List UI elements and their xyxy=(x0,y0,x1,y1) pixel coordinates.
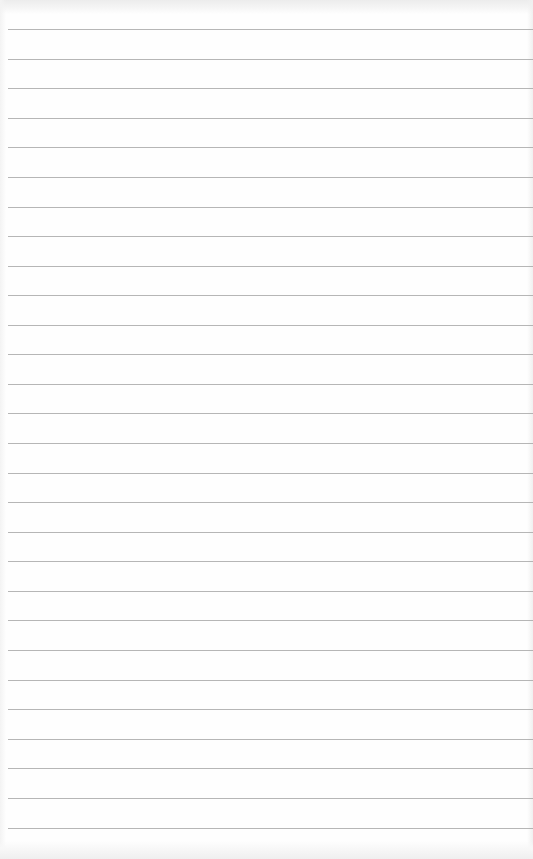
ruled-line xyxy=(8,147,533,148)
ruled-line xyxy=(8,29,533,30)
paper-right-edge xyxy=(527,0,533,859)
ruled-line xyxy=(8,118,533,119)
ruled-line xyxy=(8,650,533,651)
ruled-line xyxy=(8,207,533,208)
paper-left-edge xyxy=(0,0,6,859)
ruled-line xyxy=(8,443,533,444)
ruled-line xyxy=(8,502,533,503)
ruled-line xyxy=(8,266,533,267)
ruled-line xyxy=(8,88,533,89)
ruled-line xyxy=(8,680,533,681)
ruled-line xyxy=(8,325,533,326)
ruled-line xyxy=(8,828,533,829)
ruled-line xyxy=(8,295,533,296)
ruled-line xyxy=(8,798,533,799)
ruled-line xyxy=(8,473,533,474)
paper-bottom-edge xyxy=(0,841,533,859)
ruled-line xyxy=(8,768,533,769)
paper-top-edge xyxy=(0,0,533,14)
ruled-line xyxy=(8,709,533,710)
ruled-line xyxy=(8,384,533,385)
ruled-line xyxy=(8,236,533,237)
lined-paper xyxy=(0,0,533,859)
ruled-line xyxy=(8,354,533,355)
ruled-line xyxy=(8,591,533,592)
ruled-line xyxy=(8,413,533,414)
ruled-line xyxy=(8,561,533,562)
ruled-line xyxy=(8,739,533,740)
ruled-line xyxy=(8,532,533,533)
ruled-line xyxy=(8,177,533,178)
ruled-line xyxy=(8,620,533,621)
ruled-line xyxy=(8,59,533,60)
